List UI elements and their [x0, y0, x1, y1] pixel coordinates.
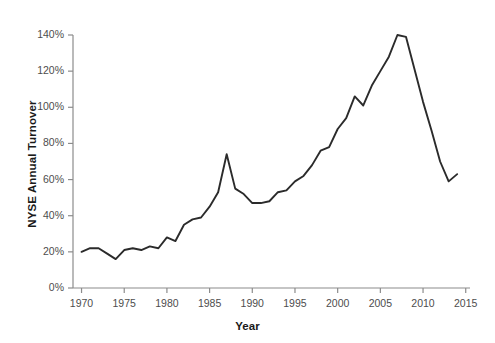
y-tick-label: 60% [20, 173, 64, 185]
y-axis-ticks [68, 35, 73, 288]
y-tick-label: 100% [20, 100, 64, 112]
x-tick-label: 1995 [273, 297, 317, 309]
y-tick-label: 80% [20, 136, 64, 148]
y-tick-label: 120% [20, 64, 64, 76]
x-tick-label: 1985 [188, 297, 232, 309]
y-tick-label: 140% [20, 28, 64, 40]
y-tick-label: 40% [20, 209, 64, 221]
x-tick-label: 1970 [60, 297, 104, 309]
x-axis-title: Year [0, 320, 495, 332]
chart-plot-area [0, 0, 495, 343]
x-tick-label: 2015 [444, 297, 488, 309]
x-tick-label: 2000 [316, 297, 360, 309]
data-series-line [82, 35, 458, 259]
chart-container: NYSE Annual Turnover Year 0%20%40%60%80%… [0, 0, 495, 343]
x-tick-label: 1990 [230, 297, 274, 309]
y-axis-title: NYSE Annual Turnover [26, 69, 38, 259]
x-tick-label: 2005 [358, 297, 402, 309]
x-tick-label: 2010 [401, 297, 445, 309]
y-tick-label: 0% [20, 281, 64, 293]
x-tick-label: 1980 [145, 297, 189, 309]
x-tick-label: 1975 [102, 297, 146, 309]
y-tick-label: 20% [20, 245, 64, 257]
x-axis-ticks [82, 288, 466, 293]
